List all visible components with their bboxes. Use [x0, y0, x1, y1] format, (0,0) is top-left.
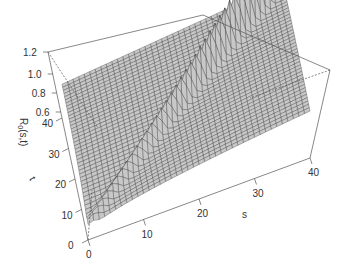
svg-text:30: 30	[49, 149, 61, 160]
surface-plot: 1.21.00.80.6010203040010203040 R0(s,t) s…	[0, 0, 343, 274]
s-axis-label: s	[242, 209, 247, 220]
svg-text:10: 10	[62, 210, 74, 221]
svg-text:0.8: 0.8	[32, 88, 46, 99]
svg-text:0: 0	[68, 240, 74, 251]
svg-text:40: 40	[308, 167, 320, 178]
surface-mesh	[62, 0, 310, 224]
svg-text:0.6: 0.6	[36, 107, 50, 118]
svg-text:20: 20	[197, 208, 209, 219]
z-axis-label: R0(s,t)	[17, 118, 29, 146]
svg-text:10: 10	[142, 229, 154, 240]
svg-text:1.0: 1.0	[28, 69, 42, 80]
svg-text:0: 0	[86, 249, 92, 260]
svg-text:40: 40	[42, 118, 54, 129]
svg-text:1.2: 1.2	[23, 47, 37, 58]
svg-text:30: 30	[253, 188, 265, 199]
svg-text:20: 20	[55, 179, 67, 190]
t-axis-label: t	[27, 174, 38, 182]
